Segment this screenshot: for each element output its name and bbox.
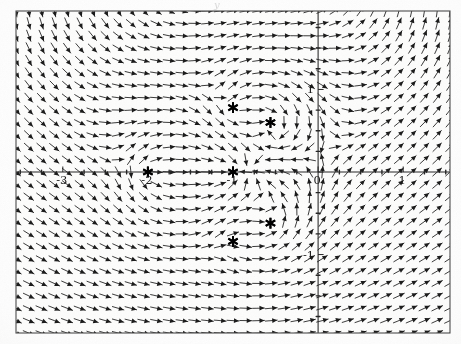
y-tick-label: -1 bbox=[303, 248, 314, 262]
x-tick-label: 0 bbox=[313, 173, 320, 187]
y-tick-label: 1 bbox=[307, 82, 314, 96]
x-tick-label: -2 bbox=[141, 173, 152, 187]
x-tick-label: -1 bbox=[226, 173, 237, 187]
x-tick-label: 1 bbox=[399, 173, 406, 187]
x-tick-label: -3 bbox=[56, 173, 67, 187]
figure-container: y -3-2-101-11 bbox=[0, 0, 461, 344]
vector-field-plot: -3-2-101-11 bbox=[0, 0, 461, 344]
